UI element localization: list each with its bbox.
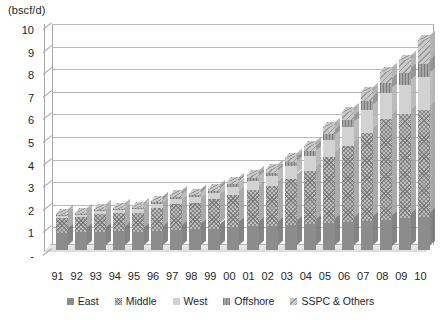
east-legend-key: [67, 298, 74, 305]
bar-segment-side: [297, 216, 302, 245]
x-axis-tick-label: 99: [200, 270, 220, 282]
x-axis-tick-label: 97: [162, 270, 182, 282]
sspc-legend-key: [290, 298, 297, 305]
bar-segment-sspc-others: [418, 40, 430, 64]
bar-segment-side: [316, 215, 321, 245]
bar-segment-side: [182, 220, 187, 245]
x-axis-tick-label: 00: [219, 270, 239, 282]
bar-segment-side: [411, 105, 416, 213]
bar-column: [399, 60, 411, 250]
legend-label: East: [78, 295, 99, 307]
x-axis-tick-label: 02: [258, 270, 278, 282]
bar-segment-side: [373, 123, 378, 215]
bar-series-container: [0, 18, 441, 251]
bar-segment-middle: [418, 110, 430, 217]
bar-segment-side: [259, 217, 264, 245]
bar-segment-west: [380, 93, 392, 119]
legend-item[interactable]: West: [173, 295, 208, 307]
bar-segment-side: [278, 216, 283, 245]
x-axis-tick-label: 03: [277, 270, 297, 282]
bar-column: [170, 195, 182, 250]
legend-label: West: [184, 295, 208, 307]
bar-segment-side: [335, 148, 340, 218]
bar-segment-east: [208, 229, 220, 250]
bar-segment-side: [354, 213, 359, 245]
plot-area: -12345678910: [0, 18, 441, 268]
bar-segment-east: [132, 232, 144, 250]
x-axis-tick-label: 01: [239, 270, 259, 282]
bar-segment-east: [227, 227, 239, 250]
bar-segment-middle: [361, 133, 373, 221]
bar-segment-east: [380, 220, 392, 251]
bar-segment-middle: [94, 214, 106, 232]
bar-segment-west: [399, 85, 411, 114]
legend-label: Offshore: [234, 295, 274, 307]
bar-segment-east: [399, 218, 411, 250]
bar-segment-side: [373, 211, 378, 245]
bar-segment-side: [392, 110, 397, 215]
bar-column: [247, 175, 259, 250]
bar-segment-side: [278, 177, 283, 221]
bar-segment-side: [430, 208, 435, 245]
offshore-legend-key: [223, 298, 230, 305]
bar-segment-middle: [189, 203, 201, 230]
bar-segment-side: [259, 181, 264, 221]
bar-column: [56, 214, 68, 250]
bar-segment-middle: [399, 114, 411, 218]
bar-segment-east: [342, 222, 354, 250]
middle-legend-key: [115, 298, 122, 305]
x-axis-tick-label: 92: [67, 270, 87, 282]
bar-segment-sspc-others: [380, 72, 392, 83]
legend-label: Middle: [126, 295, 157, 307]
bar-segment-sspc-others: [342, 112, 354, 120]
x-axis-tick-label: 96: [143, 270, 163, 282]
bar-segment-side: [411, 209, 416, 245]
bar-segment-east: [361, 221, 373, 250]
bar-column: [132, 207, 144, 250]
chart-legend: EastMiddleWestOffshoreSSPC & Others: [0, 292, 441, 310]
bar-segment-sspc-others: [361, 92, 373, 101]
bar-segment-side: [297, 170, 302, 221]
bar-segment-middle: [227, 195, 239, 228]
x-axis-tick-label: 09: [391, 270, 411, 282]
bar-segment-middle: [113, 213, 125, 231]
x-axis-tick-label: 98: [181, 270, 201, 282]
bar-column: [418, 40, 430, 250]
bar-segment-east: [56, 233, 68, 250]
bar-column: [285, 158, 297, 250]
bar-column: [361, 92, 373, 250]
legend-item[interactable]: Middle: [115, 295, 157, 307]
bar-column: [342, 112, 354, 250]
bar-segment-side: [87, 223, 92, 245]
x-axis-tick-label: 94: [105, 270, 125, 282]
bar-segment-middle: [170, 204, 182, 230]
legend-item[interactable]: East: [67, 295, 99, 307]
bar-segment-east: [94, 232, 106, 250]
bar-segment-middle: [380, 119, 392, 220]
west-legend-key: [173, 298, 180, 305]
bar-segment-side: [144, 223, 149, 245]
bar-segment-east: [113, 231, 125, 250]
legend-item[interactable]: Offshore: [223, 295, 274, 307]
bar-column: [151, 201, 163, 250]
bar-segment-east: [323, 223, 335, 250]
bar-segment-side: [68, 224, 73, 245]
bar-segment-west: [266, 176, 278, 186]
x-axis-tick-label: 04: [296, 270, 316, 282]
bar-segment-east: [266, 226, 278, 250]
bar-segment-middle: [75, 217, 87, 232]
bar-segment-side: [316, 162, 321, 219]
bar-segment-offshore: [380, 83, 392, 93]
bar-segment-side: [354, 137, 359, 217]
bar-segment-offshore: [418, 64, 430, 78]
bar-column: [189, 194, 201, 250]
bar-segment-offshore: [399, 73, 411, 85]
bar-segment-middle: [208, 199, 220, 228]
bar-segment-west: [342, 127, 354, 146]
bar-segment-side: [201, 220, 206, 245]
bar-segment-sspc-others: [323, 127, 335, 134]
legend-item[interactable]: SSPC & Others: [290, 295, 374, 307]
bar-segment-east: [189, 229, 201, 250]
x-axis-tick-label: 07: [353, 270, 373, 282]
bar-column: [227, 182, 239, 250]
